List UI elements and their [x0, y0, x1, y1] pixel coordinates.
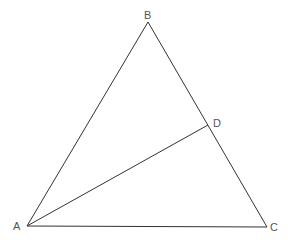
segment-ad	[27, 125, 208, 226]
diagram-canvas: A B C D	[0, 0, 288, 240]
segment-ac	[27, 226, 267, 227]
label-d: D	[213, 117, 221, 129]
segment-bc	[148, 22, 267, 227]
segment-ab	[27, 22, 148, 226]
label-c: C	[270, 221, 278, 233]
label-b: B	[144, 9, 151, 21]
triangle-diagram: A B C D	[0, 0, 288, 240]
label-a: A	[13, 220, 21, 232]
